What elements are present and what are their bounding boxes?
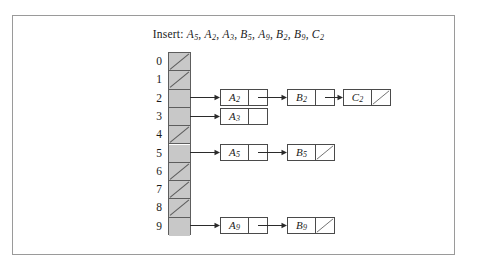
array-cell-9[interactable] <box>169 218 190 236</box>
caption-key-c2: C2 <box>312 28 324 40</box>
null-slash-icon <box>169 163 190 180</box>
null-slash-icon <box>372 90 390 105</box>
arrow-icon <box>258 217 287 234</box>
node-pointer-field <box>249 109 267 124</box>
array-cell-7[interactable] <box>169 181 190 199</box>
arrow-icon <box>190 108 220 125</box>
null-slash-icon <box>316 145 334 160</box>
hash-table-array <box>168 52 191 235</box>
array-cell-2[interactable] <box>169 90 190 108</box>
node-key-b9: B9 <box>288 218 316 233</box>
array-index-label-5: 5 <box>146 144 162 162</box>
caption-label: Insert: <box>153 28 187 40</box>
arrow-icon <box>190 144 220 161</box>
bucket-arrow-5 <box>190 144 220 161</box>
array-cell-3[interactable] <box>169 108 190 126</box>
array-cell-8[interactable] <box>169 199 190 217</box>
arrow-icon <box>325 89 343 106</box>
null-slash-icon <box>169 126 190 143</box>
array-cell-0[interactable] <box>169 53 190 71</box>
bucket-arrow-9 <box>190 217 220 234</box>
arrow-icon <box>258 144 287 161</box>
node-key-a5: A5 <box>221 145 249 160</box>
array-cell-1[interactable] <box>169 71 190 89</box>
null-slash-icon <box>169 181 190 198</box>
array-cell-4[interactable] <box>169 126 190 144</box>
null-slash-icon <box>169 53 190 70</box>
chain-node-b5[interactable]: B5 <box>287 144 335 161</box>
node-pointer-field <box>316 145 334 160</box>
caption-key-a9: A9 <box>258 28 270 40</box>
null-slash-icon <box>169 199 190 216</box>
caption-key-b5: B5 <box>240 28 252 40</box>
chain-node-c2[interactable]: C2 <box>343 89 391 106</box>
caption-key-a2: A2 <box>205 28 217 40</box>
node-key-a3: A3 <box>221 109 249 124</box>
array-cell-5[interactable] <box>169 145 190 163</box>
node-key-a2: A2 <box>221 90 249 105</box>
node-pointer-field <box>372 90 390 105</box>
array-index-label-6: 6 <box>146 162 162 180</box>
caption-key-b9: B9 <box>294 28 306 40</box>
node-key-a9: A9 <box>221 218 249 233</box>
node-key-b5: B5 <box>288 145 316 160</box>
array-index-label-2: 2 <box>146 89 162 107</box>
chain-link-arrow <box>325 89 343 106</box>
caption-key-a3: A3 <box>222 28 234 40</box>
chain-node-b9[interactable]: B9 <box>287 217 335 234</box>
array-cell-6[interactable] <box>169 163 190 181</box>
array-index-label-0: 0 <box>146 52 162 70</box>
chain-link-arrow <box>258 89 287 106</box>
arrow-icon <box>190 89 220 106</box>
node-key-b2: B2 <box>288 90 316 105</box>
bucket-arrow-3 <box>190 108 220 125</box>
array-index-label-8: 8 <box>146 198 162 216</box>
array-index-label-7: 7 <box>146 180 162 198</box>
chain-link-arrow <box>258 217 287 234</box>
chain-node-a3[interactable]: A3 <box>220 108 268 125</box>
array-index-label-3: 3 <box>146 107 162 125</box>
figure-caption: Insert: A5, A2, A3, B5, A9, B2, B9, C2 <box>0 28 477 42</box>
array-index-label-1: 1 <box>146 70 162 88</box>
caption-key-a5: A5 <box>187 28 199 40</box>
node-pointer-field <box>316 218 334 233</box>
null-slash-icon <box>316 218 334 233</box>
caption-key-b2: B2 <box>276 28 288 40</box>
arrow-icon <box>258 89 287 106</box>
arrow-icon <box>190 217 220 234</box>
node-key-c2: C2 <box>344 90 372 105</box>
chain-link-arrow <box>258 144 287 161</box>
null-slash-icon <box>169 71 190 88</box>
array-index-label-9: 9 <box>146 217 162 235</box>
array-index-label-4: 4 <box>146 125 162 143</box>
bucket-arrow-2 <box>190 89 220 106</box>
